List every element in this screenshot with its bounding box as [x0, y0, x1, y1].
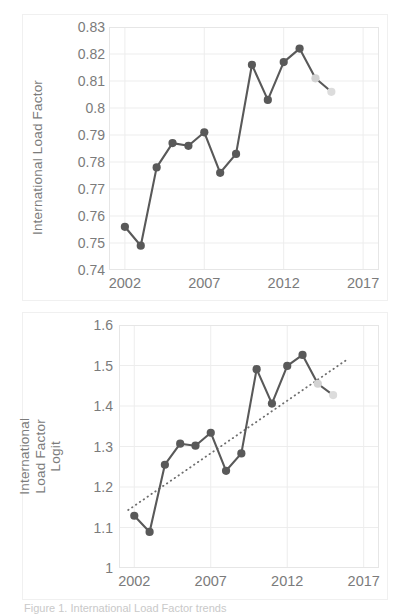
plot-area-load-factor-logit: International Load Factor Logit 1.61.51.…	[23, 313, 387, 599]
y-tick-label: 0.83	[78, 19, 105, 35]
y-tick-label: 1.5	[94, 358, 113, 374]
y-tick-label: 0.81	[78, 73, 105, 89]
y-axis-tick-labels-load-factor-logit: 1.61.51.41.31.21.11	[61, 325, 113, 568]
chart-svg-load-factor	[109, 27, 379, 270]
x-axis-tick-labels-load-factor-logit: 2002200720122017	[119, 571, 379, 593]
x-tick-label: 2002	[118, 573, 150, 589]
x-axis-tick-labels-load-factor: 2002200720122017	[109, 273, 379, 295]
y-tick-label: 0.79	[78, 127, 105, 143]
y-tick-label: 0.76	[78, 208, 105, 224]
x-tick-label: 2012	[268, 275, 300, 291]
y-axis-tick-labels-load-factor: 0.830.820.810.80.790.780.770.760.750.74	[49, 27, 105, 270]
y-tick-label: 0.77	[78, 181, 105, 197]
x-tick-label: 2007	[195, 573, 227, 589]
x-tick-label: 2007	[188, 275, 220, 291]
y-tick-label: 0.8	[86, 100, 105, 116]
y-tick-label: 1.3	[94, 439, 113, 455]
y-tick-label: 0.74	[78, 262, 105, 278]
y-tick-label: 1.6	[94, 317, 113, 333]
y-axis-title-load-factor-logit: International Load Factor Logit	[23, 313, 57, 599]
plot-area-load-factor: International Load Factor 0.830.820.810.…	[23, 15, 387, 300]
x-tick-label: 2017	[348, 573, 380, 589]
y-tick-label: 0.75	[78, 235, 105, 251]
chart-panel-load-factor-logit: International Load Factor Logit 1.61.51.…	[22, 312, 388, 600]
chart-panel-load-factor: International Load Factor 0.830.820.810.…	[22, 14, 388, 301]
y-axis-title-load-factor: International Load Factor	[25, 15, 51, 300]
x-tick-label: 2012	[271, 573, 303, 589]
y-tick-label: 1.2	[94, 479, 113, 495]
x-tick-label: 2017	[347, 275, 379, 291]
y-tick-label: 1.1	[94, 520, 113, 536]
y-tick-label: 0.78	[78, 154, 105, 170]
y-tick-label: 1.4	[94, 398, 113, 414]
y-tick-label: 0.82	[78, 46, 105, 62]
chart-svg-load-factor-logit	[119, 325, 379, 568]
x-tick-label: 2002	[109, 275, 141, 291]
figure-caption: Figure 1. International Load Factor tren…	[24, 602, 404, 614]
y-tick-label: 1	[105, 560, 113, 576]
